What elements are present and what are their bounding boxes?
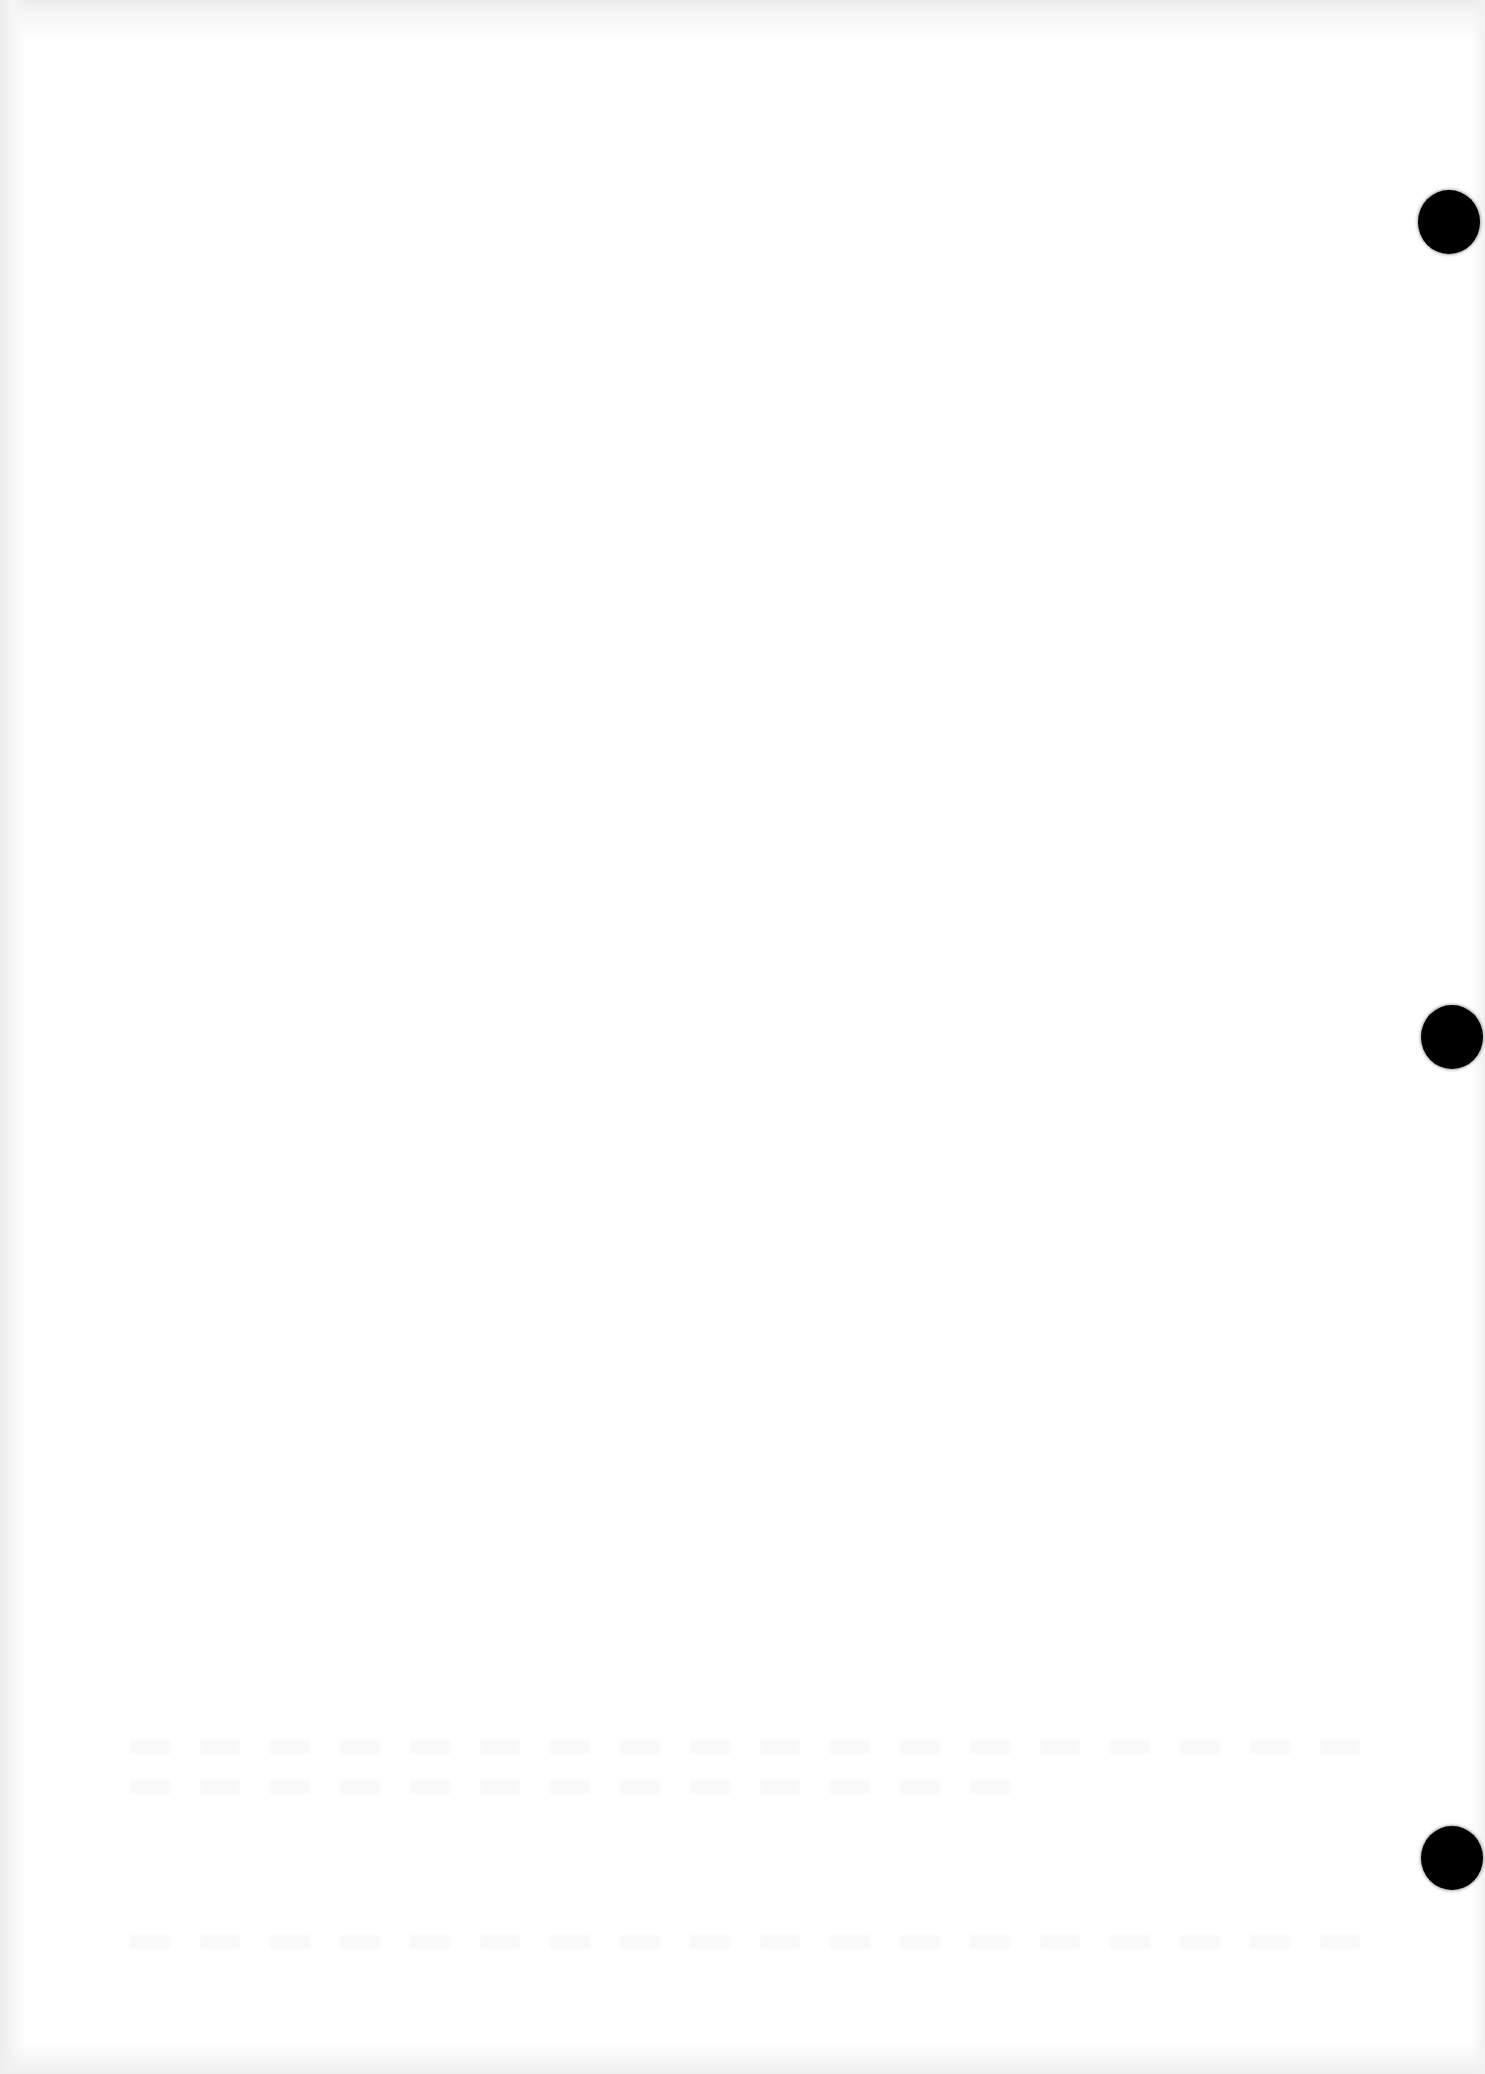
scan-shadow-left <box>0 0 26 2074</box>
punch-hole-middle <box>1421 1005 1483 1069</box>
scan-shadow-top <box>0 0 1485 40</box>
scan-shadow-bottom <box>0 2044 1485 2074</box>
bleed-through-line <box>130 1935 1360 1949</box>
bleed-through-line <box>130 1780 1030 1794</box>
punch-hole-bottom <box>1421 1826 1483 1890</box>
punch-hole-top <box>1418 190 1480 254</box>
scanned-page <box>0 0 1485 2074</box>
bleed-through-line <box>130 1740 1360 1754</box>
